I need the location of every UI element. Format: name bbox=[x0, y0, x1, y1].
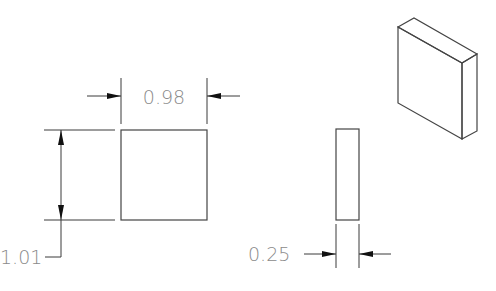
side-view-rect bbox=[336, 129, 359, 220]
front-view: 0.98 1.01 bbox=[0, 78, 240, 268]
thickness-dimension-label: 0.25 bbox=[248, 243, 290, 265]
iso-top-face bbox=[398, 18, 477, 63]
arrow-left-icon bbox=[207, 93, 221, 99]
arrow-left-icon bbox=[359, 251, 373, 257]
thickness-dimension: 0.25 bbox=[248, 224, 391, 268]
arrow-right-icon bbox=[107, 93, 121, 99]
arrow-down-icon bbox=[58, 205, 64, 220]
height-dimension: 1.01 bbox=[0, 130, 115, 268]
iso-front-face bbox=[398, 27, 462, 139]
width-dimension-label: 0.98 bbox=[143, 86, 185, 108]
side-view: 0.25 bbox=[248, 129, 391, 268]
iso-right-face bbox=[462, 54, 477, 139]
width-dimension: 0.98 bbox=[87, 78, 240, 124]
arrow-up-icon bbox=[58, 130, 64, 145]
arrow-right-icon bbox=[322, 251, 336, 257]
front-view-square bbox=[121, 130, 207, 220]
isometric-view bbox=[398, 18, 477, 139]
height-dimension-label: 1.01 bbox=[0, 246, 42, 268]
technical-drawing: 0.98 1.01 0.25 bbox=[0, 0, 496, 291]
